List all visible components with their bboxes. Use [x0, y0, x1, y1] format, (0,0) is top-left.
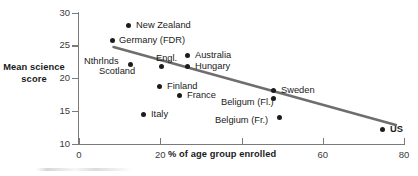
label-sweden: Sweden	[281, 85, 315, 95]
point-new-zealand	[126, 23, 131, 28]
label-new-zealand: New Zealand	[136, 20, 191, 30]
label-engl: Engl.	[156, 53, 177, 63]
point-sweden	[271, 88, 276, 93]
point-finland	[157, 84, 162, 89]
label-nthrlnds: Nthrlnds	[84, 56, 119, 66]
scan-artifact	[36, 168, 132, 171]
scatter-chart: 30 25 20 15 10 0 20 40 60 80 Mean scienc…	[0, 0, 418, 176]
trend-line	[0, 0, 418, 176]
label-germany: Germany (FDR)	[119, 35, 185, 45]
label-belgium-fl: Beligum (Fl.)	[221, 97, 274, 107]
point-us	[380, 127, 385, 132]
point-france	[177, 93, 182, 98]
label-belgium-fr: Belgium (Fr.)	[215, 115, 268, 125]
label-australia: Australia	[195, 50, 231, 60]
point-engl	[159, 64, 164, 69]
label-hungary: Hungary	[195, 61, 230, 71]
label-scotland: Scotland	[99, 66, 135, 76]
label-italy: Italy	[151, 109, 168, 119]
label-us: US	[390, 124, 403, 134]
label-france: France	[187, 90, 216, 100]
point-italy	[141, 112, 146, 117]
plot-area: New Zealand Germany (FDR) Australia Nthr…	[0, 0, 418, 176]
